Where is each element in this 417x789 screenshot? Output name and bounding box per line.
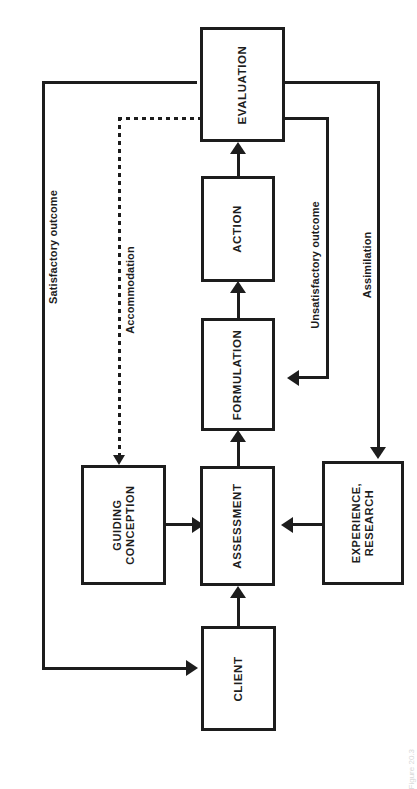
edge-formulation-to-action-line <box>237 290 240 318</box>
edge-satisfactory-arrowhead <box>186 660 198 676</box>
edge-assessment-to-formulation-arrowhead <box>230 430 246 442</box>
edge-accommodation-segment-vertical <box>118 117 121 461</box>
edge-unsatisfactory-segment-vertical <box>326 117 329 378</box>
edge-satisfactory-segment-horizontal-bottom <box>42 667 194 670</box>
edge-experience-to-assessment-arrowhead <box>281 517 293 533</box>
node-guiding-conception-label: GUIDING CONCEPTION <box>111 485 136 564</box>
edge-assimilation-segment-horizontal <box>284 81 380 84</box>
edge-unsatisfactory-segment-horizontal-bottom <box>297 376 329 379</box>
node-action-label: ACTION <box>231 205 244 253</box>
edge-accommodation-arrowhead <box>113 455 125 465</box>
edge-label-satisfactory-outcome: Satisfactory outcome <box>47 190 59 304</box>
node-experience-research[interactable]: EXPERIENCE, RESEARCH <box>322 461 404 585</box>
node-evaluation[interactable]: EVALUATION <box>200 27 285 142</box>
node-guiding-conception-label-line1: GUIDING <box>111 499 123 550</box>
node-formulation-label: FORMULATION <box>231 329 244 420</box>
edge-formulation-to-action-arrowhead <box>230 281 246 293</box>
edge-label-accommodation: Accommodation <box>124 246 136 333</box>
figure-caption: Figure 20.3 <box>407 749 416 789</box>
node-client[interactable]: CLIENT <box>201 626 276 731</box>
edge-client-to-assessment-arrowhead <box>230 586 246 598</box>
node-evaluation-label: EVALUATION <box>236 45 249 124</box>
edge-unsatisfactory-segment-horizontal-top <box>284 117 329 120</box>
edge-assimilation-segment-vertical <box>377 81 380 453</box>
edge-satisfactory-segment-horizontal-top <box>42 81 197 84</box>
node-assessment[interactable]: ASSESSMENT <box>200 466 275 586</box>
node-client-label: CLIENT <box>232 656 245 701</box>
edge-label-unsatisfactory-outcome: Unsatisfactory outcome <box>309 201 321 329</box>
edge-assimilation-arrowhead <box>370 447 386 459</box>
edge-assessment-to-formulation-line <box>237 440 240 466</box>
edge-label-assimilation: Assimilation <box>361 232 373 299</box>
node-action[interactable]: ACTION <box>201 176 275 282</box>
node-experience-research-label-line1: EXPERIENCE, <box>350 483 362 564</box>
node-experience-research-label: EXPERIENCE, RESEARCH <box>350 483 375 564</box>
node-formulation[interactable]: FORMULATION <box>201 318 275 431</box>
node-guiding-conception[interactable]: GUIDING CONCEPTION <box>81 465 166 585</box>
node-experience-research-label-line2: RESEARCH <box>363 490 375 557</box>
edge-action-to-evaluation-arrowhead <box>230 142 246 154</box>
edge-client-to-assessment-line <box>237 596 240 626</box>
edge-satisfactory-segment-vertical <box>42 81 45 669</box>
edge-accommodation-segment-horizontal <box>118 117 200 120</box>
node-assessment-label: ASSESSMENT <box>231 483 244 568</box>
node-guiding-conception-label-line2: CONCEPTION <box>124 485 136 564</box>
edge-unsatisfactory-arrowhead <box>287 370 299 386</box>
edge-action-to-evaluation-line <box>237 152 240 176</box>
